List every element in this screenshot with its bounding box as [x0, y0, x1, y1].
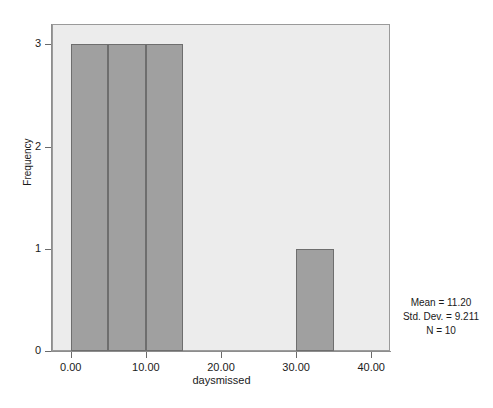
x-axis-title: daysmissed: [52, 374, 391, 386]
y-tick: 3: [0, 44, 51, 45]
y-axis-title: Frequency: [22, 138, 33, 185]
x-tick: 30.00: [296, 352, 297, 358]
x-tick-label: 30.00: [282, 361, 310, 373]
y-tick-mark: [45, 249, 51, 250]
y-axis-line: [51, 24, 52, 352]
x-tick-mark: [71, 352, 72, 358]
y-tick-mark: [45, 147, 51, 148]
y-tick: 0: [0, 351, 51, 352]
histogram-bar: [296, 249, 334, 351]
x-tick-mark: [371, 352, 372, 358]
y-tick-label: 0: [35, 343, 41, 358]
x-tick-label: 20.00: [207, 361, 235, 373]
x-tick: 20.00: [221, 352, 222, 358]
x-tick-label: 0.00: [60, 361, 81, 373]
y-tick-mark: [45, 351, 51, 352]
stat-std-dev: Std. Dev. = 9.211: [393, 310, 489, 324]
y-tick: 1: [0, 249, 51, 250]
x-tick-mark: [296, 352, 297, 358]
x-tick-label: 10.00: [132, 361, 160, 373]
histogram-figure: 0123 Frequency 0.0010.0020.0030.0040.00 …: [0, 0, 493, 408]
x-tick: 10.00: [146, 352, 147, 358]
stat-mean: Mean = 11.20: [393, 296, 489, 310]
x-tick-mark: [221, 352, 222, 358]
y-tick-label: 3: [35, 36, 41, 51]
x-tick: 0.00: [71, 352, 72, 358]
stat-n: N = 10: [393, 324, 489, 338]
y-tick-mark: [45, 44, 51, 45]
y-tick-label: 2: [35, 139, 41, 154]
histogram-bar: [71, 44, 109, 351]
x-tick-label: 40.00: [357, 361, 385, 373]
histogram-bar: [108, 44, 146, 351]
statistics-annotation: Mean = 11.20 Std. Dev. = 9.211 N = 10: [393, 296, 489, 338]
x-tick: 40.00: [371, 352, 372, 358]
x-tick-mark: [146, 352, 147, 358]
histogram-bar: [146, 44, 184, 351]
y-tick-label: 1: [35, 241, 41, 256]
